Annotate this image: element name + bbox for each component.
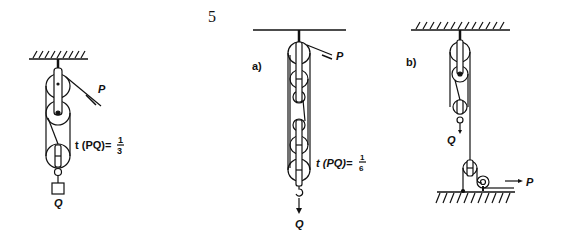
pulley-diagram-figure: 5 P Q t (PQ)= 1 3 (0, 0, 564, 241)
panel-b-pulley-system: b) Q P (406, 22, 534, 203)
panel-a-pulley-system: a) P Q t (PQ)= 1 6 (252, 30, 366, 230)
force-label-p: P (336, 50, 344, 62)
ratio-denominator: 3 (117, 146, 122, 156)
ratio-numerator: 1 (360, 153, 365, 162)
load-label-q: Q (54, 197, 63, 209)
load-label-q: Q (295, 218, 304, 230)
weight-block (52, 183, 64, 194)
figure-number: 5 (208, 8, 216, 25)
force-label-p: P (526, 176, 534, 188)
panel-label-a: a) (252, 60, 262, 72)
force-label-p: P (98, 83, 106, 95)
ratio-denominator: 6 (359, 164, 364, 173)
ceiling-hatch (29, 51, 88, 59)
panel-label-b: b) (406, 56, 417, 68)
load-label-q: Q (447, 134, 456, 146)
ratio-label: t (PQ)= (316, 157, 353, 169)
panel-left-pulley-system: P Q t (PQ)= 1 3 (29, 51, 124, 209)
ratio-label: t (PQ)= (75, 139, 111, 151)
ratio-numerator: 1 (118, 135, 123, 145)
